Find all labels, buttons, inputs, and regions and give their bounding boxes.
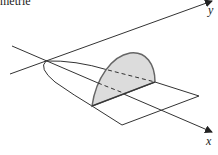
parabola-upper-branch (46, 61, 108, 70)
solid-diagram (0, 0, 218, 155)
y-axis-label: y (208, 3, 213, 18)
parabola-lower-branch (43, 61, 92, 106)
x-axis-label: x (206, 134, 211, 149)
